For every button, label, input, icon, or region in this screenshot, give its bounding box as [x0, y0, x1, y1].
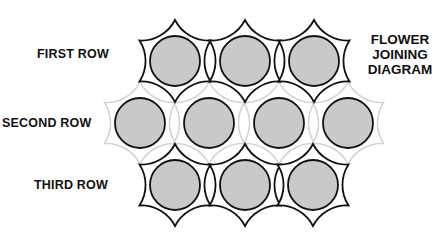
flower-center-circle	[288, 160, 338, 210]
flower-center-circle	[220, 160, 270, 210]
flower-center-circle	[220, 36, 270, 86]
flower-motif	[278, 20, 349, 102]
flower-motif	[209, 20, 280, 102]
flower-motif	[243, 82, 314, 164]
flower-motif	[209, 144, 280, 226]
flower-center-circle	[115, 98, 165, 148]
flower-motif	[277, 144, 348, 226]
flower-center-circle	[184, 98, 234, 148]
flower-motif	[312, 82, 383, 164]
flower-center-circle	[254, 98, 304, 148]
flower-center-circle	[150, 36, 200, 86]
flower-motif	[104, 82, 175, 164]
row-1-flowers	[139, 20, 349, 102]
flower-motif	[139, 144, 210, 226]
flower-center-circle	[289, 36, 339, 86]
row-3-flowers	[139, 144, 348, 226]
flower-motif	[139, 20, 210, 102]
flower-center-circle	[323, 98, 373, 148]
flower-center-circle	[150, 160, 200, 210]
flower-diagram	[0, 0, 440, 245]
flower-motif	[173, 82, 244, 164]
